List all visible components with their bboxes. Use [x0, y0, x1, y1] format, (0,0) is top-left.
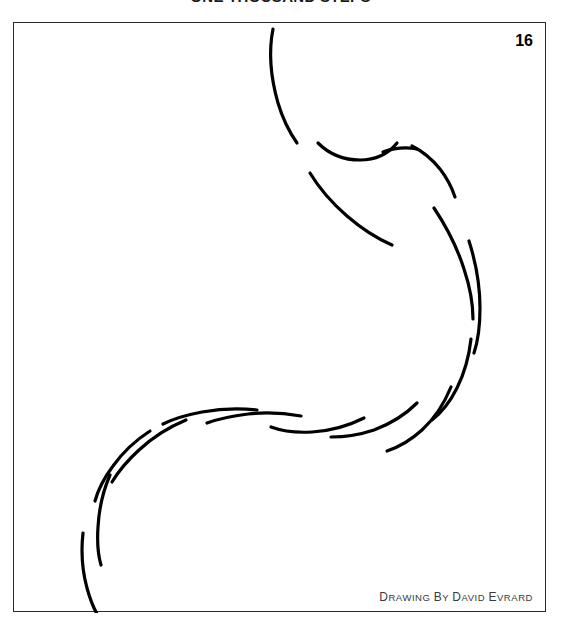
credit-word4-rest: VRARD: [497, 592, 533, 603]
credit-word2-rest: Y: [442, 592, 449, 603]
comic-panel-frame: 16 DRAWING BY DAVID EVRARD: [13, 22, 546, 612]
credit-word1-rest: RAWING: [388, 592, 430, 603]
drawing-stroke-5: [383, 148, 417, 152]
credit-word3-cap: D: [452, 590, 461, 604]
credit-word4-cap: E: [488, 590, 497, 604]
drawing-stroke-12: [207, 413, 301, 423]
drawing-stroke-14: [112, 420, 186, 482]
artist-credit: DRAWING BY DAVID EVRARD: [379, 592, 533, 603]
drawing-stroke-10: [331, 403, 417, 437]
dashed-curve-strokes: [82, 29, 480, 613]
drawing-stroke-8: [432, 339, 471, 420]
credit-word2-cap: B: [434, 590, 443, 604]
credit-word3-rest: AVID: [462, 592, 486, 603]
cartoon-title: ONE THOUSAND STEPS: [0, 0, 561, 5]
drawing-stroke-1: [271, 29, 297, 143]
drawing-stroke-4: [412, 146, 455, 197]
drawing-stroke-2: [310, 173, 392, 245]
line-drawing: [14, 23, 547, 613]
drawing-stroke-11: [271, 418, 364, 432]
drawing-stroke-6: [434, 208, 473, 319]
